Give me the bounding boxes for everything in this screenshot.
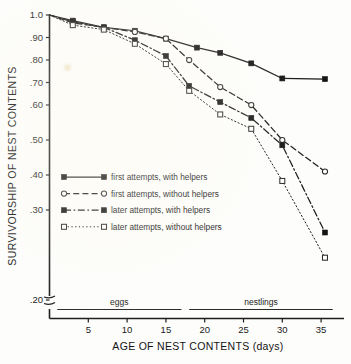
data-point xyxy=(218,100,223,105)
x-tick-label: 20 xyxy=(199,324,210,335)
data-point xyxy=(187,88,192,93)
legend-marker-right xyxy=(102,208,107,213)
x-tick-group: 5101520253035 xyxy=(86,319,327,336)
data-point xyxy=(163,53,168,58)
legend-marker-left xyxy=(62,208,67,213)
data-point xyxy=(322,77,327,82)
x-axis-title: AGE OF NEST CONTENTS (days) xyxy=(112,340,283,352)
data-point xyxy=(249,126,254,131)
y-tick-label: .90 xyxy=(30,32,43,43)
axes-group xyxy=(44,15,344,319)
x-tick-label: 5 xyxy=(86,324,91,335)
y-tick-label: .70 xyxy=(30,77,43,88)
legend-marker-right xyxy=(102,224,107,229)
series-2 xyxy=(50,15,328,174)
phase-band-group: eggsnestlings xyxy=(57,297,332,310)
data-point xyxy=(163,62,168,67)
chart-canvas: 1.0.90.80.70.60.50.40.30.20 510152025303… xyxy=(0,0,351,364)
legend-marker-right xyxy=(101,191,106,196)
legend-item-2: first attempts, without helpers xyxy=(61,189,219,199)
series-line xyxy=(50,15,325,233)
y-tick-label: .20 xyxy=(30,294,43,305)
data-point xyxy=(163,36,168,41)
y-tick-label: .80 xyxy=(30,54,43,65)
y-tick-label: .60 xyxy=(30,99,43,110)
y-tick-label: 1.0 xyxy=(30,9,43,20)
data-point xyxy=(322,255,327,260)
data-point xyxy=(187,83,192,88)
series-3 xyxy=(50,15,328,235)
data-point xyxy=(101,27,106,32)
data-point xyxy=(280,143,285,148)
x-tick-label: 10 xyxy=(122,324,133,335)
legend-item-1: first attempts, with helpers xyxy=(62,172,208,182)
figure-survivorship-chart: 1.0.90.80.70.60.50.40.30.20 510152025303… xyxy=(0,0,351,364)
legend-marker-left xyxy=(62,175,67,180)
data-point xyxy=(249,102,254,107)
data-point xyxy=(280,76,285,81)
phase-band-label: eggs xyxy=(110,297,128,307)
data-point xyxy=(249,61,254,66)
legend-marker-right xyxy=(102,175,107,180)
data-point xyxy=(194,45,199,50)
legend-item-4: later attempts, without helpers xyxy=(62,222,222,232)
x-tick-label: 15 xyxy=(161,324,172,335)
data-point xyxy=(218,112,223,117)
data-point xyxy=(249,115,254,120)
x-tick-label: 35 xyxy=(316,324,327,335)
data-point xyxy=(218,84,223,89)
data-point xyxy=(322,169,327,174)
y-tick-label: .30 xyxy=(30,204,43,215)
paper-smudge xyxy=(64,64,71,71)
data-point xyxy=(280,137,285,142)
data-point xyxy=(218,50,223,55)
legend-item-label: later attempts, with helpers xyxy=(111,205,210,215)
legend-marker-left xyxy=(61,191,66,196)
legend-item-label: first attempts, with helpers xyxy=(111,172,207,182)
y-tick-group: 1.0.90.80.70.60.50.40.30.20 xyxy=(30,9,50,305)
legend-item-label: first attempts, without helpers xyxy=(111,189,219,199)
legend-marker-left xyxy=(62,224,67,229)
data-point xyxy=(322,230,327,235)
chart-svg: 1.0.90.80.70.60.50.40.30.20 510152025303… xyxy=(0,0,351,364)
data-point xyxy=(187,57,192,62)
data-point xyxy=(70,23,75,28)
legend-item-3: later attempts, with helpers xyxy=(62,205,211,215)
legend-item-label: later attempts, without helpers xyxy=(111,222,222,232)
data-point xyxy=(132,41,137,46)
phase-band-label: nestlings xyxy=(244,297,278,307)
y-axis-title: SURVIVORSHIP OF NEST CONTENTS xyxy=(6,66,18,265)
y-tick-label: .40 xyxy=(30,169,43,180)
data-point xyxy=(280,178,285,183)
legend-group: first attempts, with helpersfirst attemp… xyxy=(61,172,221,232)
x-tick-label: 25 xyxy=(238,324,249,335)
y-tick-label: .50 xyxy=(30,134,43,145)
x-tick-label: 30 xyxy=(277,324,288,335)
data-point xyxy=(132,29,137,34)
